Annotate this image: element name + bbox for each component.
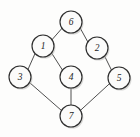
graph-node-2[interactable]: 2 (86, 37, 109, 61)
graph-diagram-figure: 1234567 (0, 0, 140, 137)
graph-node-5[interactable]: 5 (108, 67, 131, 91)
graph-edge-3-7 (30, 83, 62, 111)
graph-node-label-4: 4 (69, 72, 74, 82)
graph-node-label-2: 2 (95, 43, 100, 53)
graph-node-4[interactable]: 4 (60, 66, 83, 90)
graph-edge-1-3 (28, 54, 35, 70)
graph-node-label-1: 1 (41, 41, 46, 51)
graph-node-label-5: 5 (117, 73, 122, 83)
graph-node-label-6: 6 (69, 17, 74, 27)
graph-node-3[interactable]: 3 (9, 66, 32, 90)
graph-node-label-3: 3 (17, 72, 23, 82)
graph-node-6[interactable]: 6 (60, 11, 83, 35)
graph-edge-5-7 (81, 84, 110, 111)
graph-node-7[interactable]: 7 (60, 105, 83, 129)
graph-canvas: 1234567 (0, 0, 140, 137)
node-layer: 1234567 (9, 11, 131, 129)
graph-edge-2-5 (105, 56, 112, 70)
graph-edge-6-2 (80, 28, 88, 42)
graph-node-1[interactable]: 1 (32, 35, 55, 59)
graph-edge-1-4 (52, 53, 63, 70)
graph-edge-6-1 (52, 28, 62, 39)
